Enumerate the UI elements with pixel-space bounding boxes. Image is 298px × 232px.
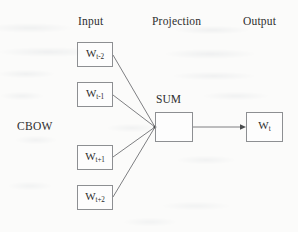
column-header-input: Input [78,15,103,27]
edge-w-t-plus-1-to-sum [113,127,155,157]
node-base-w-t: W [258,119,268,131]
cbow-architecture-figure: Input Projection Output CBOW Wt-2 Wt-1 W… [0,0,298,232]
node-sub-w-t: t [269,125,271,133]
node-base-w-t-plus-1: W [85,150,95,162]
node-base-w-t-plus-2: W [85,190,95,202]
node-label-w-t-plus-1: Wt+1 [85,151,105,164]
column-header-output: Output [243,15,276,27]
sum-label: SUM [156,93,181,105]
node-sub-w-t-plus-2: t+2 [96,196,105,204]
node-sub-w-t-minus-1: t-1 [96,93,104,101]
node-w-t-plus-1: Wt+1 [77,145,113,170]
node-sub-w-t-plus-1: t+1 [96,156,105,164]
node-label-w-t-minus-2: Wt-2 [86,48,104,61]
node-label-w-t: Wt [258,120,270,133]
node-sum [155,112,193,142]
column-header-projection: Projection [152,15,201,27]
edge-w-t-plus-2-to-sum [113,127,155,197]
node-label-w-t-plus-2: Wt+2 [85,191,105,204]
model-name-label: CBOW [17,120,53,132]
node-w-t-plus-2: Wt+2 [77,185,113,210]
node-base-w-t-minus-2: W [86,47,96,59]
node-w-t-minus-1: Wt-1 [77,82,113,107]
node-w-t: Wt [246,112,283,142]
edge-w-t-minus-2-to-sum [113,55,155,127]
edge-w-t-minus-1-to-sum [113,95,155,127]
node-label-w-t-minus-1: Wt-1 [86,88,104,101]
node-base-w-t-minus-1: W [86,87,96,99]
node-sub-w-t-minus-2: t-2 [96,53,104,61]
node-w-t-minus-2: Wt-2 [77,42,113,67]
